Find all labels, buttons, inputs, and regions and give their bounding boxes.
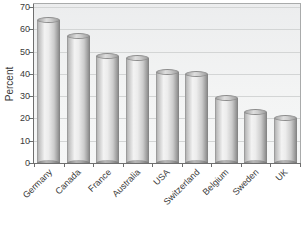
bar [67, 36, 90, 163]
x-category-label-text: Belgium [201, 167, 231, 197]
y-tick-label: 30 [2, 91, 30, 101]
bar-body [126, 58, 149, 163]
x-tick [300, 164, 301, 167]
bar-cap [215, 95, 238, 101]
x-category-label-text: Sweden [231, 167, 261, 197]
x-tick [152, 164, 153, 167]
bar-body [215, 98, 238, 163]
bar [244, 112, 267, 163]
plot-frame-top [33, 3, 301, 4]
x-tick [211, 164, 212, 167]
x-category-label-text: France [86, 167, 113, 194]
y-tick-label: 40 [2, 69, 30, 79]
x-tick [64, 164, 65, 167]
y-tick-label: 0 [2, 158, 30, 168]
bar-body [244, 112, 267, 163]
bar-body [185, 74, 208, 163]
y-tick-label: 60 [2, 24, 30, 34]
bar-cap [67, 33, 90, 39]
x-category-label-text: Australia [110, 167, 142, 199]
x-tick [270, 164, 271, 167]
bar [215, 98, 238, 163]
plot-frame-right [300, 3, 301, 164]
bar-body [67, 36, 90, 163]
bar-cap [96, 53, 119, 59]
bar [274, 118, 297, 163]
x-category-label-text: UK [274, 167, 290, 183]
bar-cap [274, 115, 297, 121]
bar-cap [156, 69, 179, 75]
bar [185, 74, 208, 163]
x-tick [93, 164, 94, 167]
bar-cap [37, 17, 60, 23]
x-tick [123, 164, 124, 167]
bar-cap [244, 109, 267, 115]
bar-cap [185, 71, 208, 77]
bar-body [156, 72, 179, 163]
y-tick-label: 10 [2, 136, 30, 146]
bar-body [37, 20, 60, 163]
bar-chart: Percent 010203040506070GermanyCanadaFran… [0, 0, 304, 225]
bar-body [96, 56, 119, 163]
bar-body [274, 118, 297, 163]
x-tick [182, 164, 183, 167]
x-axis-line [33, 163, 301, 164]
gridline [34, 29, 300, 30]
bar [37, 20, 60, 163]
x-category-label-text: Canada [54, 167, 83, 196]
bar [156, 72, 179, 163]
y-tick-label: 20 [2, 113, 30, 123]
bar [96, 56, 119, 163]
bar [126, 58, 149, 163]
y-tick-label: 50 [2, 47, 30, 57]
x-tick [34, 164, 35, 167]
gridline [34, 7, 300, 8]
y-tick-label: 70 [2, 2, 30, 12]
plot-area [34, 4, 300, 163]
bar-cap [126, 55, 149, 61]
x-category-label-text: USA [152, 167, 172, 187]
x-category-label-text: Germany [21, 167, 54, 200]
y-axis-line [33, 4, 34, 164]
x-tick [241, 164, 242, 167]
